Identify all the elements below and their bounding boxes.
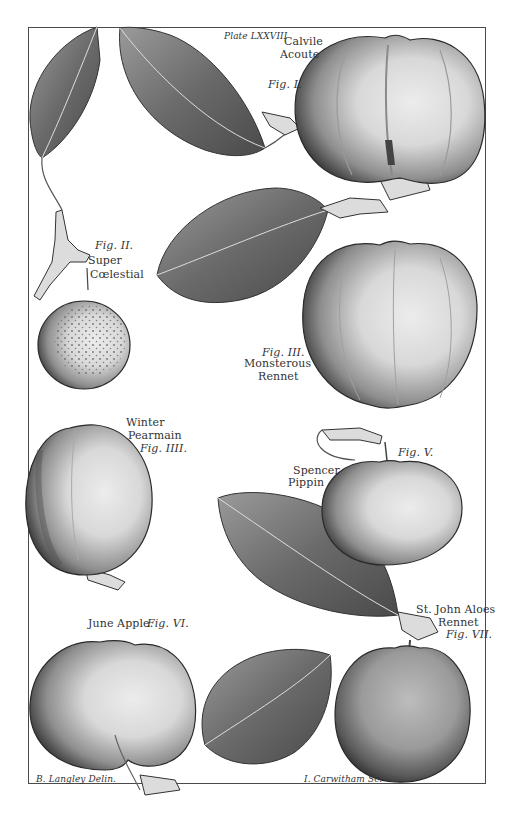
fig7-name-line1: St. John Aloes — [416, 604, 495, 616]
twig-fig3 — [320, 198, 388, 218]
engraving-artwork — [0, 0, 512, 836]
fig3-name-line1: Monsterous — [244, 358, 311, 370]
twig-fig5 — [322, 428, 382, 444]
apple-fig5-spencer-pippin — [322, 461, 462, 566]
apple-fig2-super-coelestial — [38, 301, 130, 389]
apple-fig7-st-john-aloes-rennet — [335, 646, 470, 782]
fig1-name-line1: Calvile — [284, 36, 323, 48]
fig7-label: Fig. VII. — [446, 629, 492, 641]
fig2-name-line1: Super — [88, 255, 122, 267]
leaf-top-center — [120, 27, 300, 155]
fig6-name-line1: June Apple. — [88, 618, 153, 630]
engraver-credit: I. Carwitham Sc. — [304, 773, 382, 785]
fig3-name-line2: Rennet — [258, 371, 299, 383]
fig4-name-line1: Winter — [126, 417, 165, 429]
fig2-label: Fig. II. — [95, 240, 133, 252]
apple-fig3-monsterous-rennet — [303, 241, 477, 408]
apple-fig6-june-apple — [30, 641, 196, 790]
fig4-label: Fig. IIII. — [140, 443, 187, 455]
twig-fig7 — [398, 612, 438, 640]
fig4-name-line2: Pearmain — [128, 430, 182, 442]
twig-fig1 — [262, 112, 300, 135]
fig1-label: Fig. I. — [268, 79, 302, 91]
twig-fig2 — [34, 210, 90, 300]
fig2-name-line2: Cœlestial — [90, 269, 144, 281]
leaf-top-left — [30, 27, 100, 210]
plate-number: Plate LXXVIII — [224, 30, 287, 42]
fig6-label: Fig. VI. — [147, 618, 189, 630]
fig1-name-line2: Acoute — [280, 49, 319, 61]
fig5-name-line2: Pippin — [288, 477, 324, 489]
leaf-bottom-center — [202, 649, 331, 764]
apple-fig4-winter-pearmain — [26, 425, 152, 575]
twig-fig6 — [140, 775, 180, 795]
engraving-plate: Plate LXXVIII Calvile Acoute Fig. I. Fig… — [0, 0, 512, 836]
delineator-credit: B. Langley Delin. — [36, 773, 116, 785]
fig5-label: Fig. V. — [398, 447, 433, 459]
apple-fig1-calvile-acoute — [295, 35, 485, 183]
